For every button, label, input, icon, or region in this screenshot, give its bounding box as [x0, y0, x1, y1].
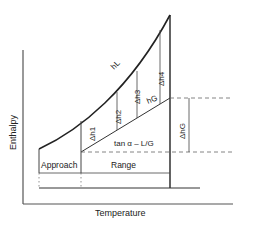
range-label: Range	[111, 160, 136, 170]
slope-label: tan α – L/G	[114, 139, 154, 148]
saturation-curve-label: hL	[109, 58, 122, 71]
y-axis-label: Enthalpy	[8, 114, 18, 150]
delta-hg-label: ΔhG	[178, 123, 187, 139]
x-axis-label: Temperature	[95, 208, 146, 218]
approach-label: Approach	[41, 160, 78, 170]
delta-h2-label: Δh2	[114, 109, 123, 124]
cooling-tower-enthalpy-diagram: Enthalpy Temperature hL hG tan α – L/G Δ…	[0, 0, 253, 226]
saturation-curve	[39, 15, 170, 149]
delta-h4-label: Δh4	[157, 71, 166, 86]
delta-h1-label: Δh1	[88, 126, 97, 141]
operating-line-label: hG	[145, 94, 158, 106]
delta-h3-label: Δh3	[133, 89, 142, 104]
